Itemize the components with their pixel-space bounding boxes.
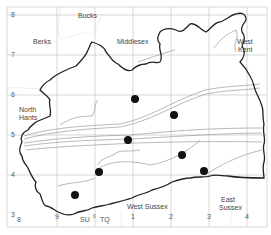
col-tick-0: 0 [93, 212, 96, 220]
record-dot [124, 136, 132, 144]
row-tick-7: 7 [11, 51, 15, 59]
col-tick-9: 9 [55, 213, 59, 221]
region-label-west-kent-2: Kent [238, 46, 252, 54]
row-tick-3: 3 [11, 211, 15, 219]
region-label-berks: Berks [33, 38, 51, 46]
row-tick-5: 5 [11, 131, 15, 139]
col-tick-1: 1 [131, 213, 135, 221]
record-dot [95, 168, 103, 176]
region-label-north-hants-2: Hants [19, 114, 37, 122]
col-tick-2: 2 [169, 213, 173, 221]
col-tick-4: 4 [245, 213, 249, 221]
region-label-bucks: Bucks [78, 12, 97, 20]
grid-square-left-label: SU [80, 216, 90, 224]
row-tick-8: 8 [11, 11, 15, 19]
region-label-middlesex: Middlesex [117, 38, 149, 46]
region-label-east-sussex-1: East [221, 196, 235, 204]
record-dots [71, 95, 208, 199]
row-tick-6: 6 [11, 91, 15, 99]
record-dot [200, 167, 208, 175]
row-tick-4: 4 [11, 171, 15, 179]
grid-square-right-label: TQ [100, 216, 110, 224]
contour-lines [24, 30, 262, 186]
region-label-west-kent-1: West [237, 38, 253, 46]
record-dot [170, 111, 178, 119]
col-tick-8: 8 [17, 216, 21, 224]
region-label-east-sussex-2: Sussex [219, 204, 242, 212]
record-dot [178, 151, 186, 159]
region-label-north-hants-1: North [19, 106, 36, 114]
col-tick-3: 3 [207, 213, 211, 221]
record-dot [131, 95, 139, 103]
region-label-west-sussex: West Sussex [127, 203, 168, 211]
record-dot [71, 191, 79, 199]
